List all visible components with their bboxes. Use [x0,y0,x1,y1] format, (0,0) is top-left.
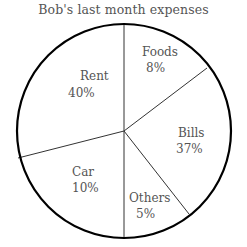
slice-label-name: Bills [178,126,205,140]
slice-label-name: Rent [80,69,109,83]
pie-chart: Rent 40% Foods 8% Bills 37% Others 5% Ca… [0,0,247,247]
divider-car-rent [18,131,124,158]
slice-label-name: Car [72,165,94,179]
slice-rent: Rent 40% [68,69,109,100]
slice-label-name: Foods [142,45,178,59]
divider-foods-bills [124,68,207,131]
slice-label-value: 10% [72,181,99,195]
slice-bills: Bills 37% [176,126,205,156]
slice-others: Others 5% [129,191,170,221]
slice-label-value: 37% [176,142,203,156]
slice-label-value: 5% [136,207,155,221]
slice-car: Car 10% [72,165,99,195]
slice-label-value: 40% [68,86,95,100]
slice-label-name: Others [129,191,170,205]
slice-label-value: 8% [146,61,165,75]
slice-foods: Foods 8% [142,45,178,75]
